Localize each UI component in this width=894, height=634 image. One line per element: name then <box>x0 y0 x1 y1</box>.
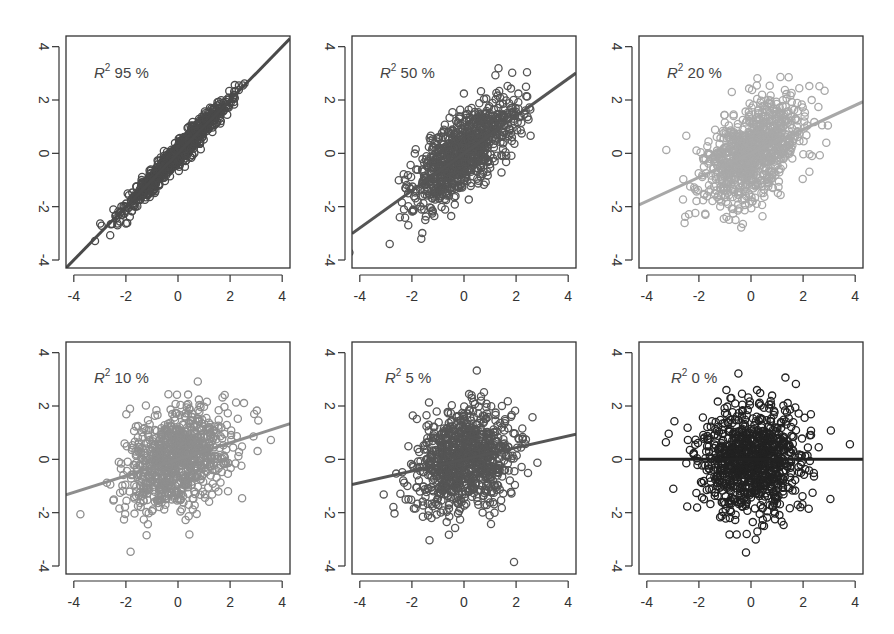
x-tick-label: 0 <box>174 288 182 304</box>
scatter-panel-r2-10: -4-2024-4-2024 <box>36 342 290 610</box>
panel-label-r2-0: R2 0 % <box>671 368 717 386</box>
r2-value: 10 % <box>110 369 148 386</box>
x-axis: -4-2024 <box>641 275 860 304</box>
y-tick-label: -2 <box>36 506 52 519</box>
x-tick-label: -4 <box>68 594 81 610</box>
y-tick-label: -2 <box>609 200 625 213</box>
y-tick-label: 0 <box>609 149 625 157</box>
x-tick-label: 0 <box>174 594 182 610</box>
y-tick-label: -4 <box>36 560 52 573</box>
x-tick-label: -4 <box>641 288 654 304</box>
data-points <box>663 73 832 231</box>
y-axis: -4-2024 <box>609 349 632 573</box>
y-tick-label: 2 <box>36 96 52 104</box>
y-tick-label: 2 <box>322 96 338 104</box>
x-axis: -4-2024 <box>68 581 287 610</box>
y-axis: -4-2024 <box>36 43 59 267</box>
scatter-panel-r2-0: -4-2024-4-2024 <box>609 342 863 610</box>
x-tick-label: 0 <box>747 288 755 304</box>
data-points <box>662 370 853 556</box>
y-tick-label: 0 <box>322 455 338 463</box>
y-tick-label: 2 <box>609 96 625 104</box>
x-tick-label: -4 <box>354 594 367 610</box>
y-tick-label: 0 <box>36 455 52 463</box>
r-symbol: R <box>94 64 105 81</box>
y-tick-label: -4 <box>36 254 52 267</box>
x-axis: -4-2024 <box>641 581 860 610</box>
r-symbol: R <box>385 369 396 386</box>
x-tick-label: -4 <box>354 288 367 304</box>
scatter-panel-r2-95: -4-2024-4-2024 <box>36 36 290 304</box>
r-symbol: R <box>671 369 682 386</box>
x-tick-label: 4 <box>851 288 859 304</box>
superscript: 2 <box>396 367 402 378</box>
panel-label-r2-20: R2 20 % <box>667 63 722 81</box>
scatter-panel-r2-20: -4-2024-4-2024 <box>609 36 863 304</box>
y-tick-label: 0 <box>322 149 338 157</box>
data-points <box>77 378 275 555</box>
panel-label-r2-5: R2 5 % <box>385 368 431 386</box>
x-tick-label: -4 <box>68 288 81 304</box>
y-tick-label: 0 <box>36 149 52 157</box>
y-tick-label: -2 <box>609 506 625 519</box>
y-tick-label: 4 <box>322 43 338 51</box>
x-tick-label: 4 <box>278 594 286 610</box>
x-tick-label: 0 <box>460 288 468 304</box>
x-tick-label: 4 <box>851 594 859 610</box>
r-symbol: R <box>94 369 105 386</box>
y-tick-label: -4 <box>322 560 338 573</box>
panel-label-r2-95: R2 95 % <box>94 63 149 81</box>
y-tick-label: 4 <box>36 349 52 357</box>
x-axis: -4-2024 <box>68 275 287 304</box>
data-points <box>380 367 541 566</box>
y-tick-label: -4 <box>609 254 625 267</box>
superscript: 2 <box>105 367 111 378</box>
y-axis: -4-2024 <box>36 349 59 573</box>
y-tick-label: 4 <box>322 349 338 357</box>
y-tick-label: 4 <box>36 43 52 51</box>
y-tick-label: -4 <box>322 254 338 267</box>
scatter-panel-r2-5: -4-2024-4-2024 <box>322 342 576 610</box>
r2-value: 50 % <box>396 64 434 81</box>
y-tick-label: 0 <box>609 455 625 463</box>
y-tick-label: 4 <box>609 349 625 357</box>
y-tick-label: -4 <box>609 560 625 573</box>
x-tick-label: -2 <box>693 594 706 610</box>
x-axis: -4-2024 <box>354 275 573 304</box>
x-tick-label: -2 <box>406 594 419 610</box>
y-tick-label: 2 <box>36 402 52 410</box>
superscript: 2 <box>105 62 111 73</box>
y-tick-label: 2 <box>609 402 625 410</box>
y-tick-label: -2 <box>322 200 338 213</box>
r2-value: 95 % <box>110 64 148 81</box>
r2-value: 0 % <box>687 369 717 386</box>
r2-value: 20 % <box>683 64 721 81</box>
y-tick-label: 4 <box>609 43 625 51</box>
y-tick-label: -2 <box>322 506 338 519</box>
y-axis: -4-2024 <box>322 43 345 267</box>
x-tick-label: 0 <box>747 594 755 610</box>
x-tick-label: 2 <box>226 288 234 304</box>
panel-label-r2-50: R2 50 % <box>380 63 435 81</box>
x-tick-label: -2 <box>120 288 133 304</box>
figure: -4-2024-4-2024-4-2024-4-2024-4-2024-4-20… <box>0 0 894 634</box>
superscript: 2 <box>678 62 684 73</box>
panel-label-r2-10: R2 10 % <box>94 368 149 386</box>
scatter-panel-r2-50: -4-2024-4-2024 <box>322 36 576 304</box>
scatter-grid: -4-2024-4-2024-4-2024-4-2024-4-2024-4-20… <box>0 0 894 634</box>
y-axis: -4-2024 <box>322 349 345 573</box>
x-tick-label: -4 <box>641 594 654 610</box>
x-tick-label: 2 <box>799 288 807 304</box>
y-tick-label: -2 <box>36 200 52 213</box>
y-tick-label: 2 <box>322 402 338 410</box>
superscript: 2 <box>391 62 397 73</box>
r2-value: 5 % <box>401 369 431 386</box>
x-tick-label: 4 <box>564 594 572 610</box>
r-symbol: R <box>667 64 678 81</box>
data-points <box>346 65 534 257</box>
x-tick-label: 0 <box>460 594 468 610</box>
x-tick-label: 2 <box>226 594 234 610</box>
x-tick-label: 2 <box>799 594 807 610</box>
x-tick-label: 2 <box>512 288 520 304</box>
x-tick-label: 4 <box>564 288 572 304</box>
